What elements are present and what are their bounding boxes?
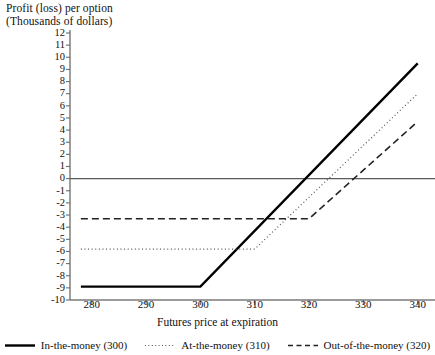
y-axis-title-line1: Profit (loss) per option	[6, 2, 113, 15]
series-group	[81, 63, 418, 286]
y-tick-label: -5	[39, 234, 65, 245]
y-tick-label: -2	[39, 198, 65, 209]
legend-swatch-solid	[5, 341, 35, 350]
y-tick-label: -10	[39, 295, 65, 306]
plot-area	[55, 28, 435, 313]
chart-svg	[55, 28, 435, 313]
y-tick-label: 11	[39, 40, 65, 51]
x-axis-title: Futures price at expiration	[0, 316, 435, 328]
y-tick-label: -8	[39, 271, 65, 282]
legend-item: Out-of-the-money (320)	[288, 339, 431, 351]
y-tick-label: -9	[39, 283, 65, 294]
legend-item: At-the-money (310)	[145, 339, 269, 351]
legend-item: In-the-money (300)	[5, 339, 127, 351]
y-tick-label: 12	[39, 28, 65, 39]
y-tick-label: 1	[39, 161, 65, 172]
x-tick-label: 320	[292, 299, 326, 310]
y-tick-label: 9	[39, 64, 65, 75]
x-tick-label: 310	[238, 299, 272, 310]
chart-page: Profit (loss) per option (Thousands of d…	[0, 0, 435, 355]
y-tick-label: 2	[39, 149, 65, 160]
x-tick-label: 290	[129, 299, 163, 310]
y-axis-title-line2: (Thousands of dollars)	[6, 15, 113, 28]
legend-swatch-dashed	[288, 341, 318, 350]
y-tick-label: 0	[39, 173, 65, 184]
y-tick-label: 8	[39, 76, 65, 87]
x-tick-label: 280	[75, 299, 109, 310]
y-tick-label: 4	[39, 125, 65, 136]
y-axis-title: Profit (loss) per option (Thousands of d…	[6, 2, 113, 27]
legend-label: At-the-money (310)	[181, 339, 269, 351]
x-tick-label: 300	[183, 299, 217, 310]
x-tick-label: 340	[401, 299, 435, 310]
series-line-1	[81, 63, 418, 286]
legend-label: In-the-money (300)	[41, 339, 127, 351]
y-tick-label: -6	[39, 246, 65, 257]
series-line-3	[81, 122, 418, 219]
axes-group	[66, 30, 435, 305]
chart-legend: In-the-money (300)At-the-money (310)Out-…	[0, 336, 435, 354]
y-tick-label: 5	[39, 113, 65, 124]
series-line-2	[81, 94, 418, 249]
y-tick-label: 7	[39, 88, 65, 99]
x-tick-label: 330	[346, 299, 380, 310]
y-tick-label: 3	[39, 137, 65, 148]
y-tick-label: -7	[39, 258, 65, 269]
y-tick-label: 6	[39, 101, 65, 112]
y-tick-label: -3	[39, 210, 65, 221]
legend-label: Out-of-the-money (320)	[324, 339, 431, 351]
y-tick-label: 10	[39, 52, 65, 63]
y-tick-label: -4	[39, 222, 65, 233]
legend-swatch-dotted	[145, 341, 175, 350]
y-tick-label: -1	[39, 186, 65, 197]
